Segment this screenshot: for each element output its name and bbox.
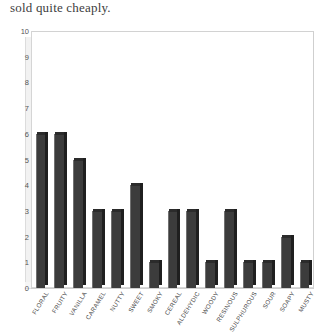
bar-slot [243, 31, 253, 288]
x-tick-label: FLORAL [31, 290, 51, 316]
x-tick-label: CEREAL [162, 290, 182, 316]
bar [92, 211, 102, 288]
x-tick-label: NUTTY [108, 290, 126, 312]
y-tick-label: 9 [7, 52, 29, 61]
bar [300, 262, 310, 288]
y-axis-ticks: 012345678910 [0, 18, 29, 324]
bar-slot [224, 31, 234, 288]
bar [243, 262, 253, 288]
y-tick-label: 3 [7, 206, 29, 215]
bar-side-face [121, 209, 124, 285]
bar-side-face [159, 260, 162, 285]
bar-slot [300, 31, 310, 288]
bar-top-face [187, 209, 196, 212]
x-tick-label: WOODY [201, 290, 220, 315]
y-tick-label: 4 [7, 181, 29, 190]
bar-side-face [45, 132, 48, 285]
bar [168, 211, 178, 288]
bar-slot [149, 31, 159, 288]
x-tick-label: SMOKY [145, 290, 164, 314]
bar [111, 211, 121, 288]
bar-slot [92, 31, 102, 288]
bar-top-face [37, 132, 46, 135]
bar-top-face [150, 260, 159, 263]
bar [281, 237, 291, 288]
y-tick-label: 8 [7, 78, 29, 87]
bar-series [31, 31, 314, 288]
bar-side-face [177, 209, 180, 285]
bar-side-face [309, 260, 312, 285]
bar-slot [262, 31, 272, 288]
bar-top-face [55, 132, 64, 135]
x-tick-label: CARAMEL [84, 290, 107, 321]
bar-side-face [83, 158, 86, 286]
y-tick-label: 10 [7, 27, 29, 36]
x-tick-label: MUSTY [296, 290, 314, 313]
y-tick-label: 6 [7, 129, 29, 138]
bar [186, 211, 196, 288]
bar [205, 262, 215, 288]
bar [36, 134, 46, 288]
page-caption: sold quite cheaply. [10, 0, 111, 16]
y-tick-label: 5 [7, 155, 29, 164]
bar-side-face [215, 260, 218, 285]
bar-slot [168, 31, 178, 288]
x-axis-labels: FLORALFRUITYVANILLACARAMELNUTTYSWEETSMOK… [31, 290, 314, 324]
bar-slot [73, 31, 83, 288]
bar [224, 211, 234, 288]
bar-slot [111, 31, 121, 288]
bar-side-face [102, 209, 105, 285]
y-tick-label: 1 [7, 258, 29, 267]
bar-top-face [263, 260, 272, 263]
bar-slot [54, 31, 64, 288]
bar-top-face [112, 209, 121, 212]
y-tick-label: 2 [7, 232, 29, 241]
x-axis-line [31, 288, 314, 289]
x-tick-label: SWEET [126, 290, 144, 314]
bar-top-face [74, 158, 83, 161]
bar-top-face [301, 260, 310, 263]
y-tick-label: 0 [7, 284, 29, 293]
bar-top-face [282, 235, 291, 238]
bar [130, 185, 140, 288]
bar-top-face [169, 209, 178, 212]
y-tick-label: 7 [7, 104, 29, 113]
bar [149, 262, 159, 288]
bar-side-face [140, 183, 143, 285]
bar-side-face [253, 260, 256, 285]
bar-slot [205, 31, 215, 288]
bar-side-face [196, 209, 199, 285]
x-tick-label: FRUITY [50, 290, 69, 314]
bar-top-face [225, 209, 234, 212]
bar [262, 262, 272, 288]
bar-top-face [206, 260, 215, 263]
bar-slot [281, 31, 291, 288]
x-tick-label: SOUR [261, 290, 277, 310]
bar [73, 160, 83, 289]
bar-slot [36, 31, 46, 288]
bar-side-face [64, 132, 67, 285]
x-tick-label: VANILLA [68, 290, 88, 317]
bar-chart: 012345678910 FLORALFRUITYVANILLACARAMELN… [0, 18, 325, 324]
bar-top-face [131, 183, 140, 186]
bar-slot [186, 31, 196, 288]
bar-top-face [244, 260, 253, 263]
bar-side-face [272, 260, 275, 285]
bar-side-face [234, 209, 237, 285]
bar-slot [130, 31, 140, 288]
bar-top-face [93, 209, 102, 212]
x-tick-label: SOAPY [278, 290, 296, 313]
bar [54, 134, 64, 288]
bar-side-face [291, 235, 294, 285]
